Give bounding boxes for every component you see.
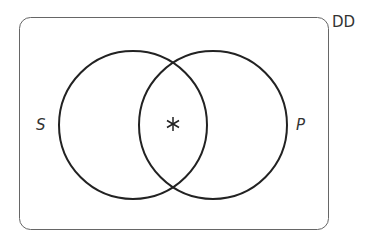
- asterisk-marker: [167, 117, 179, 131]
- set-s-label: S: [36, 116, 46, 134]
- universe-label: DD: [332, 13, 355, 31]
- set-p-label: P: [296, 116, 305, 134]
- venn-diagram: [0, 0, 378, 242]
- set-p-circle: [139, 51, 287, 199]
- set-s-circle: [59, 51, 207, 199]
